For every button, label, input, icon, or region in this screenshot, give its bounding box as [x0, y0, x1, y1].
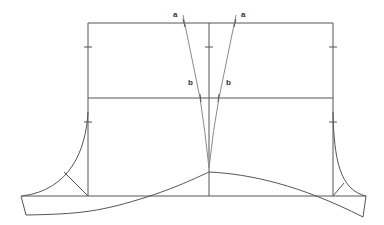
dart-right-line — [209, 15, 236, 168]
right-side-curve — [333, 112, 366, 196]
label-a-right: a — [241, 10, 246, 19]
pattern-diagram: a a b b — [0, 0, 384, 225]
label-a-left: a — [173, 10, 178, 19]
label-b-right: b — [226, 78, 231, 87]
left-side-curve — [22, 112, 88, 196]
label-b-left: b — [188, 78, 193, 87]
dart-left-line — [183, 15, 209, 168]
left-corner-diagonal — [64, 172, 88, 196]
hem-curve — [21, 172, 366, 217]
right-corner-diagonal — [333, 183, 344, 196]
